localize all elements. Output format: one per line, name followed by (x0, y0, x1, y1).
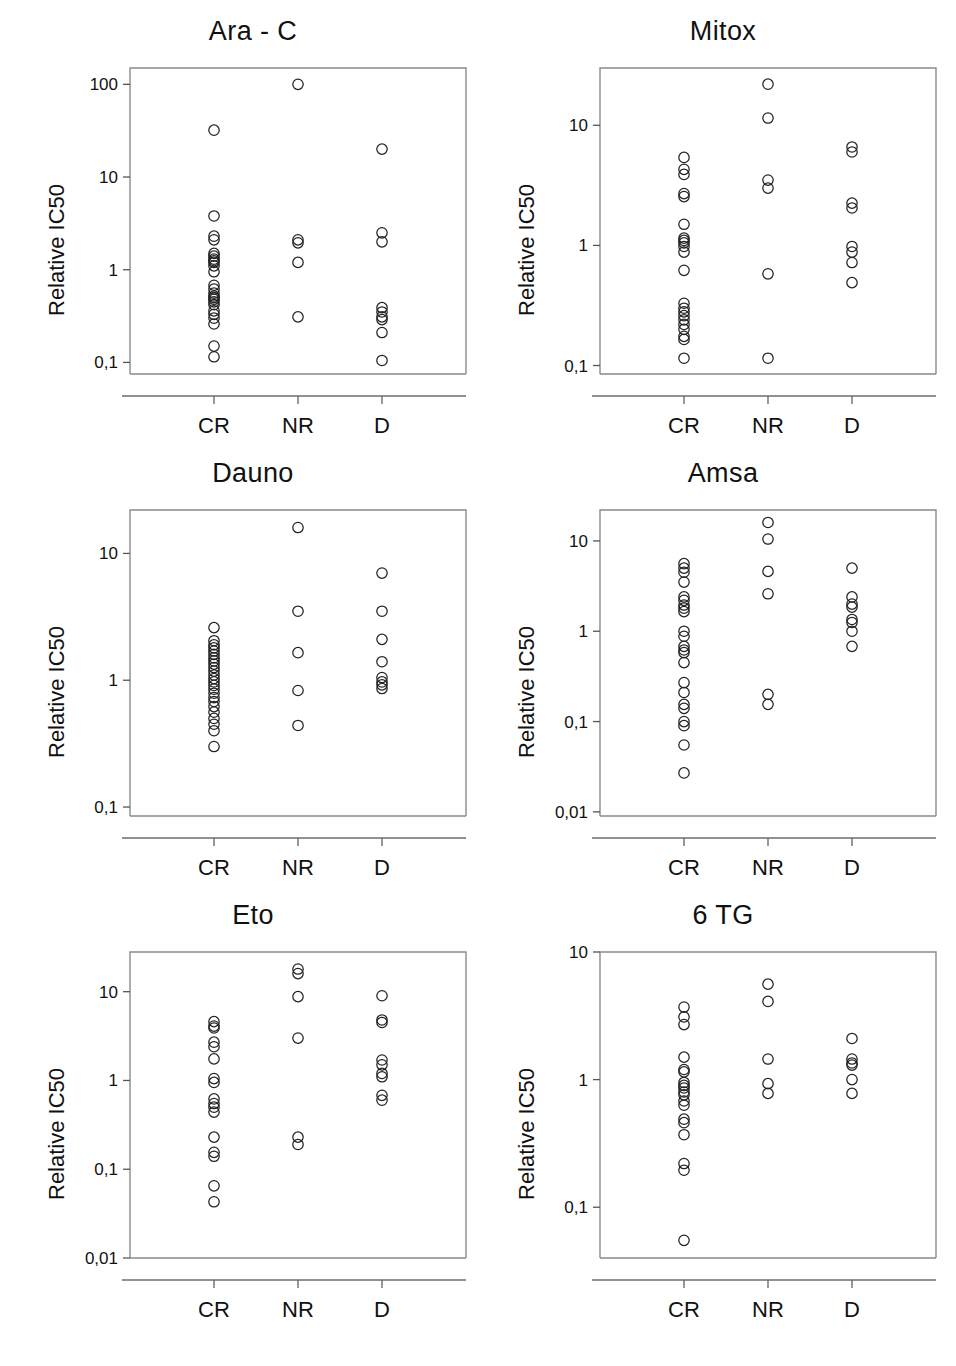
data-point (679, 1064, 689, 1074)
data-point (377, 314, 387, 324)
data-point (679, 768, 689, 778)
data-point (679, 677, 689, 687)
data-point (293, 647, 303, 657)
y-axis-tick-label: 10 (569, 116, 588, 135)
y-axis-tick-label: 10 (99, 983, 118, 1002)
scatter-plot: 0,1110100CRNRD (18, 16, 488, 466)
data-point (209, 125, 219, 135)
data-point (377, 634, 387, 644)
data-point (679, 1002, 689, 1012)
data-point (293, 606, 303, 616)
data-point (377, 355, 387, 365)
data-point (209, 341, 219, 351)
data-point (293, 257, 303, 267)
y-axis-tick-label: 1 (579, 236, 588, 255)
x-axis-category-label: CR (198, 1297, 230, 1322)
data-point (209, 1181, 219, 1191)
plot-frame (600, 952, 936, 1258)
data-point (679, 1165, 689, 1175)
x-axis-category-label: NR (282, 855, 314, 880)
data-point (377, 657, 387, 667)
x-axis-category-label: NR (282, 413, 314, 438)
data-point (847, 277, 857, 287)
data-point (679, 577, 689, 587)
plot-frame (130, 952, 466, 1258)
y-axis-tick-label: 0,1 (564, 713, 588, 732)
y-axis-tick-label: 0,1 (94, 353, 118, 372)
data-point (763, 353, 773, 363)
data-point (209, 622, 219, 632)
data-point (679, 152, 689, 162)
y-axis-tick-label: 10 (569, 943, 588, 962)
x-axis-category-label: NR (282, 1297, 314, 1322)
data-point (847, 1088, 857, 1098)
data-point (377, 1015, 387, 1025)
y-axis-tick-label: 1 (109, 671, 118, 690)
y-axis-tick-label: 0,01 (555, 803, 588, 822)
x-axis-category-label: CR (198, 855, 230, 880)
y-axis-tick-label: 0,1 (564, 1198, 588, 1217)
y-axis-tick-label: 0,1 (564, 357, 588, 376)
y-axis-tick-label: 1 (579, 1071, 588, 1090)
data-point (763, 269, 773, 279)
data-point (377, 568, 387, 578)
x-axis-category-label: CR (668, 413, 700, 438)
data-point (377, 144, 387, 154)
scatter-plot: 0,010,1110CRNRD (18, 900, 488, 1350)
y-axis-tick-label: 0,01 (85, 1249, 118, 1268)
data-point (763, 183, 773, 193)
data-point (679, 657, 689, 667)
data-point (377, 1017, 387, 1027)
scatter-plot: 0,1110CRNRD (488, 16, 956, 466)
data-point (209, 726, 219, 736)
data-point (679, 1130, 689, 1140)
data-point (209, 1054, 219, 1064)
data-point (763, 996, 773, 1006)
chart-panel-eto: EtoRelative IC500,010,1110CRNRD (18, 900, 488, 1352)
y-axis-tick-label: 1 (109, 261, 118, 280)
x-axis-category-label: D (844, 413, 860, 438)
plot-frame (600, 68, 936, 374)
x-axis-category-label: NR (752, 413, 784, 438)
figure-panel-grid: Ara - CRelative IC500,1110100CRNRDMitoxR… (0, 0, 956, 1366)
scatter-plot: 0,1110CRNRD (18, 458, 488, 908)
data-point (847, 641, 857, 651)
data-point (763, 566, 773, 576)
chart-panel-mitox: MitoxRelative IC500,1110CRNRD (488, 16, 956, 468)
chart-panel-amsa: AmsaRelative IC500,010,1110CRNRD (488, 458, 956, 910)
data-point (293, 991, 303, 1001)
data-point (209, 1197, 219, 1207)
y-axis-tick-label: 1 (579, 622, 588, 641)
data-point (763, 113, 773, 123)
data-point (679, 353, 689, 363)
data-point (679, 687, 689, 697)
x-axis-category-label: CR (198, 413, 230, 438)
y-axis-tick-label: 0,1 (94, 798, 118, 817)
x-axis-category-label: D (844, 1297, 860, 1322)
data-point (763, 1078, 773, 1088)
chart-panel-ara-c: Ara - CRelative IC500,1110100CRNRD (18, 16, 488, 468)
data-point (293, 685, 303, 695)
y-axis-tick-label: 10 (569, 532, 588, 551)
data-point (763, 79, 773, 89)
data-point (293, 312, 303, 322)
data-point (679, 1019, 689, 1029)
data-point (377, 991, 387, 1001)
data-point (763, 1054, 773, 1064)
data-point (679, 219, 689, 229)
x-axis-category-label: NR (752, 855, 784, 880)
data-point (763, 1088, 773, 1098)
data-point (293, 1139, 303, 1149)
data-point (377, 606, 387, 616)
data-point (847, 563, 857, 573)
data-point (763, 699, 773, 709)
data-point (293, 1033, 303, 1043)
y-axis-tick-label: 10 (99, 544, 118, 563)
data-point (679, 1052, 689, 1062)
x-axis-category-label: NR (752, 1297, 784, 1322)
data-point (377, 327, 387, 337)
y-axis-tick-label: 10 (99, 168, 118, 187)
data-point (847, 1074, 857, 1084)
data-point (209, 211, 219, 221)
scatter-plot: 0,010,1110CRNRD (488, 458, 956, 908)
